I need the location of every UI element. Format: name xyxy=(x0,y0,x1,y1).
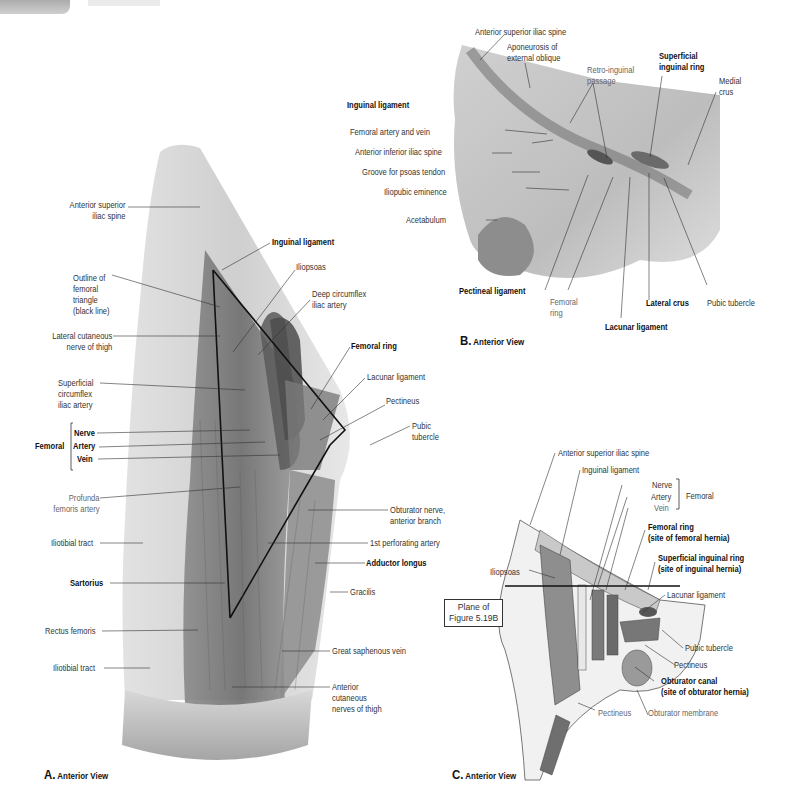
label-inguinal-ligament-a: Inguinal ligament xyxy=(272,237,334,248)
label-femoral-group-c: Femoral xyxy=(686,491,714,502)
label-femoral-vein: Vein xyxy=(77,454,93,465)
label-anterior-cutaneous-nerves: Anterior cutaneous nerves of thigh xyxy=(332,682,382,715)
label-lateral-crus: Lateral crus xyxy=(646,298,689,309)
plane-of-figure-box: Plane of Figure 5.19B xyxy=(444,599,503,627)
label-obturator-membrane: Obturator membrane xyxy=(648,708,718,719)
caption-figure-a: A. Anterior View xyxy=(44,767,108,782)
label-pectineal-ligament: Pectineal ligament xyxy=(459,286,525,297)
label-asis: Anterior superior iliac spine xyxy=(70,200,126,222)
label-superficial-inguinal-ring-c: Superficial inguinal ring (site of ingui… xyxy=(658,553,744,575)
label-iliopsoas-c: Iliopsoas xyxy=(490,567,520,578)
label-obturator-nerve: Obturator nerve, anterior branch xyxy=(390,505,445,527)
label-asis-b: Anterior superior iliac spine xyxy=(475,27,566,38)
label-lateral-cutaneous-nerve: Lateral cutaneous nerve of thigh xyxy=(52,331,112,353)
label-aponeurosis: Aponeurosis of external oblique xyxy=(507,42,560,64)
label-pubic-tubercle-c: Pubic tubercle xyxy=(685,643,733,654)
label-asis-c: Anterior superior iliac spine xyxy=(558,448,649,459)
label-acetabulum: Acetabulum xyxy=(406,215,446,226)
label-medial-crus: Medial crus xyxy=(719,76,741,98)
label-rectus-femoris: Rectus femoris xyxy=(45,626,95,637)
label-obturator-canal: Obturator canal (site of obturator herni… xyxy=(661,676,749,698)
label-pubic-tubercle-a: Pubic tubercle xyxy=(412,421,439,443)
label-iliotibial-tract-upper: Iliotibial tract xyxy=(51,538,93,549)
label-femoral-artery-vein: Femoral artery and vein xyxy=(350,127,430,138)
label-aiis: Anterior inferior iliac spine xyxy=(355,147,442,158)
label-1st-perforating-artery: 1st perforating artery xyxy=(370,538,440,549)
label-superficial-inguinal-ring-b: Superficial inguinal ring xyxy=(659,51,704,73)
label-femoral-artery: Artery xyxy=(73,441,95,452)
label-femoral-triangle-outline: Outline of femoral triangle (black line) xyxy=(73,273,110,317)
caption-figure-b: B. Anterior View xyxy=(460,333,524,348)
label-groove-psoas: Groove for psoas tendon xyxy=(362,167,445,178)
label-adductor-longus: Adductor longus xyxy=(366,558,427,569)
label-gracilis: Gracilis xyxy=(350,587,375,598)
label-lacunar-ligament-c: Lacunar ligament xyxy=(667,590,725,601)
label-femoral-nerve: Nerve xyxy=(74,428,95,439)
label-deep-circumflex-iliac-artery: Deep circumflex iliac artery xyxy=(312,289,366,311)
label-femoral-ring-b: Femoral ring xyxy=(550,297,578,319)
label-superficial-circumflex-iliac-artery: Superficial circumflex iliac artery xyxy=(58,378,93,411)
label-iliopubic-eminence: Iliopubic eminence xyxy=(384,187,447,198)
label-femoral-ring-a: Femoral ring xyxy=(351,341,397,352)
label-sartorius: Sartorius xyxy=(70,578,103,589)
label-iliopsoas-a: Iliopsoas xyxy=(296,262,326,273)
label-femoral-ring-c: Femoral ring (site of femoral hernia) xyxy=(648,522,730,544)
label-femoral-artery-c: Artery xyxy=(651,492,671,503)
label-lacunar-ligament-b: Lacunar ligament xyxy=(605,322,668,333)
label-femoral-nerve-c: Nerve xyxy=(652,480,672,491)
label-pubic-tubercle-b: Pubic tubercle xyxy=(707,298,755,309)
label-inguinal-ligament-c: Inguinal ligament xyxy=(582,465,639,476)
label-iliotibial-tract-lower: Iliotibial tract xyxy=(53,663,95,674)
label-femoral-group: Femoral xyxy=(35,441,64,452)
label-femoral-vein-c: Vein xyxy=(654,503,669,514)
label-profunda-femoris-artery: Profunda femoris artery xyxy=(54,493,100,515)
label-lacunar-ligament-a: Lacunar ligament xyxy=(367,372,425,383)
caption-figure-c: C. Anterior View xyxy=(452,767,516,782)
label-inguinal-ligament-b: Inguinal ligament xyxy=(347,100,409,111)
label-pectineus-c1: Pectineus xyxy=(674,660,707,671)
label-retro-inguinal-passage: Retro-inguinal passage xyxy=(587,65,634,87)
label-pectineus-c2: Pectineus xyxy=(598,708,631,719)
label-pectineus-a: Pectineus xyxy=(386,396,419,407)
label-great-saphenous-vein: Great saphenous vein xyxy=(332,646,406,657)
